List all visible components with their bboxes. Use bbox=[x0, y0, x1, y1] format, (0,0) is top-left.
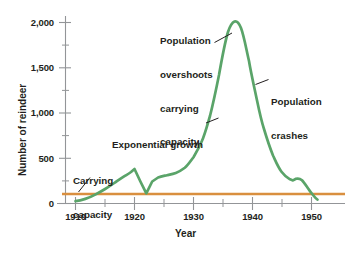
y-tick-label-1000: 1,000 bbox=[12, 107, 54, 118]
x-tick-label-1950: 1950 bbox=[296, 211, 327, 222]
annotation-crashes-line1: Population bbox=[271, 96, 322, 107]
crashes-leader-line bbox=[256, 80, 269, 85]
x-tick-label-1930: 1930 bbox=[178, 211, 209, 222]
annotation-overshoot-line2: overshoots bbox=[160, 69, 213, 80]
x-tick-label-1920: 1920 bbox=[119, 211, 150, 222]
annotation-growth-line1: Exponential growth bbox=[112, 139, 203, 150]
annotation-capacity-line1: Carrying bbox=[73, 175, 113, 186]
y-tick-label-2000: 2,000 bbox=[12, 17, 54, 28]
overshoot-leader-line bbox=[215, 33, 233, 43]
annotation-population-crashes: Population crashes bbox=[271, 74, 322, 164]
annotation-carrying-capacity: Carrying capacity bbox=[73, 153, 113, 243]
y-tick-label-1500: 1,500 bbox=[12, 62, 54, 73]
y-tick-label-500: 500 bbox=[12, 153, 54, 164]
reindeer-population-chart: Number of reindeer 2,000 1,500 1,000 500… bbox=[0, 0, 352, 253]
x-tick-label-1940: 1940 bbox=[237, 211, 268, 222]
annotation-crashes-line2: crashes bbox=[271, 130, 322, 141]
annotation-capacity-line2: capacity bbox=[73, 209, 113, 220]
annotation-overshoot-line3: carrying bbox=[160, 103, 213, 114]
x-axis-title: Year bbox=[175, 228, 196, 239]
annotation-exponential-growth: Exponential growth bbox=[112, 117, 203, 173]
annotation-overshoot-line1: Population bbox=[160, 35, 213, 46]
y-tick-label-0: 0 bbox=[12, 198, 54, 209]
